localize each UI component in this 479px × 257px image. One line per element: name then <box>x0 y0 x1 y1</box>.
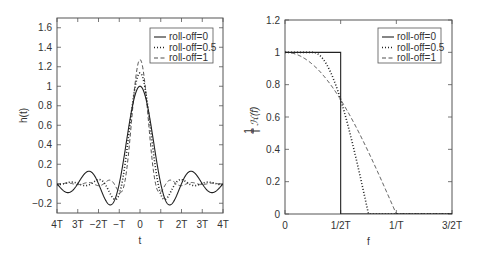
impulse-response-plot: 4T3T−2T−T0T2T3T4T−0.200.20.40.60.811.21.… <box>18 18 229 246</box>
legend-label: roll-off=0.5 <box>397 42 445 53</box>
x-tick-label: 2T <box>176 219 188 230</box>
frequency-response-plot: 01/2T1/T3/2T00.20.40.60.811.2f1Tℋ(f)roll… <box>243 15 462 248</box>
legend-label: roll-off=0 <box>397 31 436 42</box>
y-tick-label: 1.6 <box>38 22 52 33</box>
y-tick-label: 1 <box>274 47 280 58</box>
x-tick-label: 1/T <box>389 220 403 231</box>
svg-text:T: T <box>251 128 262 134</box>
y-tick-label: 1.4 <box>38 42 52 53</box>
x-axis-label: t <box>139 235 142 246</box>
legend-label: roll-off=1 <box>397 52 436 63</box>
y-tick-label: 0.6 <box>38 120 52 131</box>
y-tick-label: 0.6 <box>266 112 280 123</box>
svg-text:ℋ(f): ℋ(f) <box>249 107 260 126</box>
y-tick-label: 1 <box>46 81 52 92</box>
x-tick-label: −2T <box>90 219 108 230</box>
x-tick-label: 4T <box>217 219 229 230</box>
y-tick-label: 1.2 <box>266 15 280 26</box>
x-tick-label: 3T <box>72 219 84 230</box>
y-tick-label: 0.4 <box>266 144 280 155</box>
y-tick-label: 0 <box>274 209 280 220</box>
legend: roll-off=0roll-off=0.5roll-off=1 <box>378 28 445 63</box>
y-tick-label: 0.8 <box>266 79 280 90</box>
x-tick-label: 3T <box>196 219 208 230</box>
series-line-roll-off-1 <box>285 52 452 214</box>
series-line-roll-off-0 <box>57 86 223 205</box>
y-axis-label: h(t) <box>18 108 29 123</box>
x-axis-label: f <box>367 236 370 247</box>
y-tick-label: 0.4 <box>38 139 52 150</box>
x-tick-label: 1/2T <box>331 220 351 231</box>
x-tick-label: −T <box>113 219 125 230</box>
y-axis-label: 1Tℋ(f) <box>243 107 262 135</box>
y-tick-label: 0.8 <box>38 100 52 111</box>
y-tick-label: −0.2 <box>32 198 52 209</box>
y-tick-label: 1.2 <box>38 61 52 72</box>
legend-label: roll-off=1 <box>169 52 208 63</box>
y-tick-label: 0.2 <box>38 159 52 170</box>
x-tick-label: 0 <box>137 219 143 230</box>
x-tick-label: 0 <box>282 220 288 231</box>
series-line-roll-off-1 <box>57 60 223 193</box>
series-line-roll-off-0-5 <box>285 52 452 214</box>
x-tick-label: T <box>158 219 164 230</box>
series-line-roll-off-0-5 <box>57 73 223 200</box>
y-tick-label: 0.2 <box>266 176 280 187</box>
legend: roll-off=0roll-off=0.5roll-off=1 <box>150 28 217 63</box>
series-line-roll-off-0 <box>285 52 452 214</box>
legend-label: roll-off=0 <box>169 31 208 42</box>
x-tick-label: 4T <box>51 219 63 230</box>
y-tick-label: 0 <box>46 178 52 189</box>
x-tick-label: 3/2T <box>442 220 462 231</box>
legend-label: roll-off=0.5 <box>169 42 217 53</box>
chart-figure: 4T3T−2T−T0T2T3T4T−0.200.20.40.60.811.21.… <box>0 0 479 257</box>
